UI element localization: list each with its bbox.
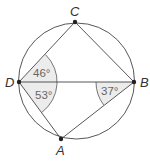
angle-label-46: 46° <box>33 67 50 79</box>
point-c <box>73 20 77 24</box>
angle-label-53: 53° <box>35 89 52 101</box>
label-c: C <box>70 4 80 19</box>
point-d <box>17 80 21 84</box>
label-d: D <box>5 75 14 90</box>
point-a <box>59 137 63 141</box>
circle-geometry-diagram: C D B A 46° 53° 37° <box>0 0 150 161</box>
angle-label-37: 37° <box>101 85 118 97</box>
point-b <box>132 80 136 84</box>
segment-cb <box>75 22 134 82</box>
label-b: B <box>140 75 149 90</box>
label-a: A <box>55 143 65 158</box>
